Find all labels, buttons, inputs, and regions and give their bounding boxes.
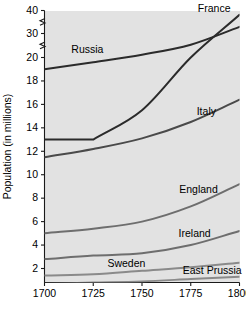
y-axis-title-group: Population (in millions) [1,94,13,200]
x-tick-label: 1750 [130,287,154,299]
chart-canvas: 24681012141618203040 1700172517501775180… [0,0,246,310]
y-tick-label: 2 [32,262,38,274]
y-tick-label: 18 [26,74,38,86]
y-axis-title: Population (in millions) [1,94,13,200]
series-label-sweden: Sweden [107,257,145,269]
series-labels-group: RussiaFranceItalyEnglandIrelandSwedenEas… [71,2,241,276]
x-tick-label: 1775 [179,287,203,299]
x-tick-labels-group: 17001725175017751800 [33,287,246,299]
series-label-england: England [179,183,218,195]
y-tick-label: 12 [26,145,38,157]
y-tick-label: 16 [26,98,38,110]
y-tick-label: 4 [32,238,38,250]
axes-group [40,11,240,287]
y-tick-label-broken: 40 [26,4,38,16]
series-label-ireland: Ireland [179,227,211,239]
y-tick-label-broken: 30 [26,27,38,39]
x-tick-label: 1800 [228,287,246,299]
y-tick-labels-group: 24681012141618203040 [26,4,38,274]
y-tick-label: 10 [26,168,38,180]
series-label-italy: Italy [197,105,217,117]
series-label-east-prussia: East Prussia [183,264,242,276]
population-line-chart: 24681012141618203040 1700172517501775180… [0,0,246,310]
series-label-france: France [198,2,231,14]
series-label-russia: Russia [71,43,103,55]
x-tick-label: 1725 [82,287,106,299]
x-tick-label: 1700 [33,287,57,299]
y-tick-label: 8 [32,191,38,203]
series-line-france [45,15,240,140]
y-tick-label: 6 [32,215,38,227]
y-tick-label: 14 [26,121,38,133]
y-tick-label: 20 [26,51,38,63]
